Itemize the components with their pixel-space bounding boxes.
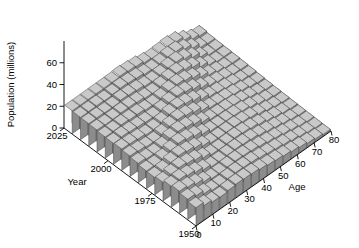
age-tick-label: 60	[295, 158, 306, 169]
chart-container: 0204060Population (millions)202520001975…	[0, 0, 359, 248]
age-tick-label: 0	[196, 229, 201, 240]
age-tick-label: 10	[211, 217, 222, 228]
z-tick-label: 60	[46, 57, 57, 68]
age-tick-label: 30	[244, 193, 255, 204]
year-tick-label: 2000	[90, 163, 111, 174]
age-tick-label: 50	[278, 170, 289, 181]
age-tick-label: 70	[312, 146, 323, 157]
z-tick-label: 20	[46, 101, 57, 112]
z-axis-title: Population (millions)	[5, 42, 16, 128]
year-tick-label: 1975	[134, 195, 155, 206]
population-age-year-3d-bar-chart: 0204060Population (millions)202520001975…	[0, 0, 359, 248]
year-tick-label: 2025	[46, 130, 67, 141]
year-axis-title: Year	[67, 176, 86, 187]
z-tick-label: 40	[46, 79, 57, 90]
age-tick-label: 40	[261, 182, 272, 193]
age-tick-label: 20	[227, 205, 238, 216]
age-axis-title: Age	[289, 181, 306, 192]
age-tick-label: 80	[329, 134, 340, 145]
